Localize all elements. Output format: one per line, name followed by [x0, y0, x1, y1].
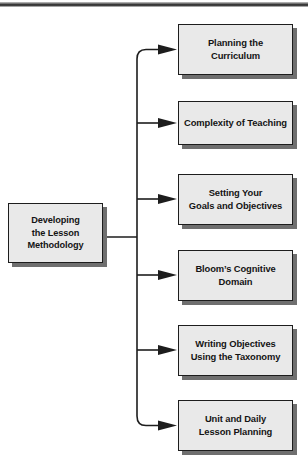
node-branch-3-label: Setting Your Goals and Objectives	[185, 187, 286, 212]
node-branch-6-label: Unit and Daily Lesson Planning	[195, 413, 277, 438]
node-branch-1-label: Planning the Curriculum	[204, 37, 267, 62]
arrowhead-branch-2	[158, 118, 177, 128]
connector-trunk	[137, 50, 158, 426]
node-branch-5[interactable]: Writing Objectives Using the Taxonomy	[178, 325, 293, 376]
node-source-label: Developing the Lesson Methodology	[23, 214, 87, 252]
node-branch-6[interactable]: Unit and Daily Lesson Planning	[178, 400, 293, 451]
node-branch-4-label: Bloom’s Cognitive Domain	[191, 263, 279, 288]
node-source[interactable]: Developing the Lesson Methodology	[8, 203, 103, 263]
arrowhead-branch-3	[158, 194, 177, 204]
arrowhead-branch-5	[158, 345, 177, 355]
arrowhead-branch-6	[158, 421, 177, 431]
arrowhead-branch-1	[158, 45, 177, 55]
node-branch-2[interactable]: Complexity of Teaching	[178, 101, 293, 145]
node-branch-1[interactable]: Planning the Curriculum	[178, 24, 293, 75]
node-branch-5-label: Writing Objectives Using the Taxonomy	[187, 338, 285, 363]
node-branch-2-label: Complexity of Teaching	[180, 117, 291, 129]
node-branch-4[interactable]: Bloom’s Cognitive Domain	[178, 250, 293, 301]
node-branch-3[interactable]: Setting Your Goals and Objectives	[178, 174, 293, 225]
diagram-canvas: Developing the Lesson Methodology Planni…	[0, 0, 308, 468]
arrowhead-branch-4	[158, 270, 177, 280]
